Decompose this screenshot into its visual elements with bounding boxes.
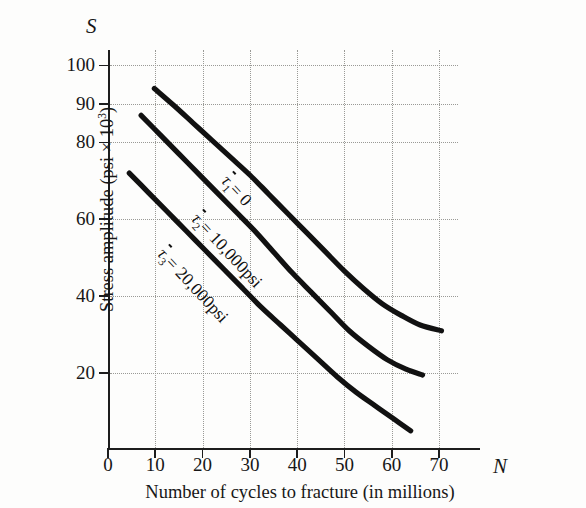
y-axis-title-main: Stress amplitude (psi × 10 [97, 119, 117, 312]
x-tick-label-40: 40 [288, 454, 307, 476]
x-tick-label-70: 70 [430, 454, 449, 476]
y-tick-label-20: 20 [76, 362, 95, 384]
plot-area: S N 2040608090100 010203040506070 τ1= 0 … [108, 50, 458, 450]
x-tick-label-20: 20 [193, 454, 212, 476]
x-axis-title: Number of cycles to fracture (in million… [114, 482, 486, 503]
curve-tau3 [129, 173, 410, 431]
y-tick-label-40: 40 [76, 285, 95, 307]
x-axis-symbol: N [493, 454, 507, 479]
y-tick-label-80: 80 [76, 131, 95, 153]
figure-container: S N 2040608090100 010203040506070 τ1= 0 … [0, 0, 586, 508]
y-axis-title-exponent: 3 [96, 113, 108, 119]
y-axis-title: Stress amplitude (psi × 103) [96, 107, 118, 312]
y-tick-label-60: 60 [76, 208, 95, 230]
y-axis-symbol: S [86, 14, 97, 39]
y-axis-title-tail: ) [97, 107, 117, 113]
x-tick-label-10: 10 [146, 454, 165, 476]
y-tick-label-100: 100 [67, 54, 96, 76]
x-tick-label-50: 50 [335, 454, 354, 476]
curve-tau2 [141, 115, 422, 375]
x-tick-label-0: 0 [103, 454, 113, 476]
x-tick-label-60: 60 [382, 454, 401, 476]
x-tick-label-30: 30 [240, 454, 259, 476]
y-tick-label-90: 90 [76, 93, 95, 115]
